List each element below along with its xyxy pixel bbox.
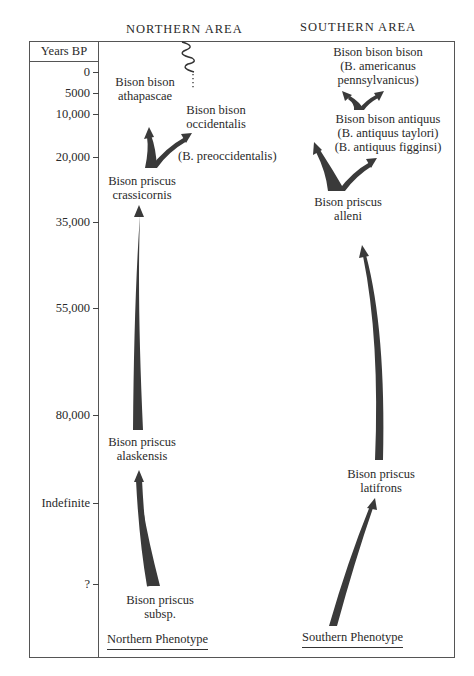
taxon-preoccidentalis: (B. preoccidentalis) bbox=[178, 149, 277, 163]
taxon-antiquus: Bison bison antiquus (B. antiquus taylor… bbox=[328, 112, 448, 154]
taxon-alleni: Bison priscus alleni bbox=[308, 195, 388, 223]
northern-phenotype-label: Northern Phenotype bbox=[107, 632, 208, 650]
taxon-bison-bison: Bison bison bison (B. americanus pennsyl… bbox=[318, 45, 438, 87]
taxon-crassicornis: Bison priscus crassicornis bbox=[102, 174, 182, 202]
lineage-arrows bbox=[0, 0, 474, 676]
taxon-subsp: Bison priscus subsp. bbox=[120, 593, 200, 621]
southern-phenotype-label: Southern Phenotype bbox=[302, 630, 403, 648]
taxon-athapascae: Bison bison athapascae bbox=[105, 75, 185, 103]
squiggle-icon bbox=[182, 42, 194, 72]
taxon-latifrons: Bison priscus latifrons bbox=[341, 467, 421, 495]
taxon-alaskensis: Bison priscus alaskensis bbox=[102, 435, 182, 463]
taxon-occidentalis: Bison bison occidentalis bbox=[176, 103, 256, 131]
